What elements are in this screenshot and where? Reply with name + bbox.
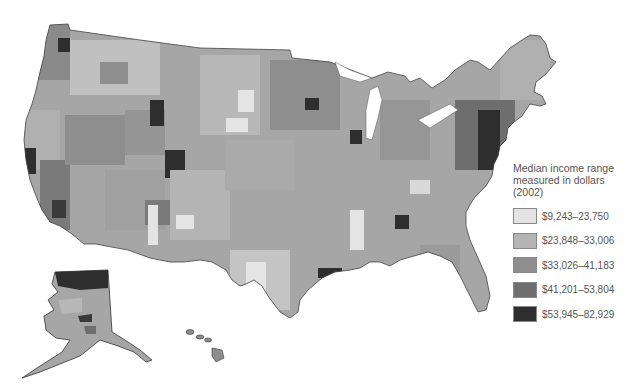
- region-michigan: [380, 100, 430, 160]
- legend-label: $23,848–33,006: [542, 235, 614, 246]
- legend-title-line: (2002): [513, 186, 638, 198]
- legend-label: $33,026–41,183: [542, 260, 614, 271]
- legend-swatch: [513, 282, 537, 298]
- legend-swatch: [513, 208, 537, 224]
- region-chicago: [350, 130, 362, 144]
- legend-title: Median income range measured in dollars …: [513, 162, 638, 198]
- legend-item: $9,243–23,750: [513, 204, 638, 229]
- region-nm: [170, 170, 230, 240]
- region-minneapolis: [305, 98, 319, 110]
- hawaii-kauai: [186, 330, 194, 335]
- legend-label: $9,243–23,750: [542, 211, 609, 222]
- legend-item: $53,945–82,929: [513, 302, 638, 327]
- region-seattle: [58, 38, 70, 52]
- legend-label: $53,945–82,929: [542, 309, 614, 320]
- legend-label: $41,201–53,804: [542, 284, 614, 295]
- legend: Median income range measured in dollars …: [513, 162, 638, 327]
- region-bos-dc: [478, 110, 500, 170]
- region-sf-bay: [22, 148, 36, 174]
- region-atlanta: [395, 215, 409, 229]
- legend-item: $33,026–41,183: [513, 253, 638, 278]
- region-appalachia: [410, 180, 430, 194]
- region-maine: [500, 40, 550, 100]
- legend-item: $41,201–53,804: [513, 278, 638, 303]
- region-ca-south: [40, 160, 70, 230]
- legend-swatch: [513, 233, 537, 249]
- region-sd-light: [238, 90, 254, 112]
- hawaii-maui: [205, 338, 212, 342]
- region-ms-delta: [350, 210, 364, 250]
- region-ne-light: [226, 118, 248, 132]
- legend-title-line: measured in dollars: [513, 174, 638, 186]
- legend-swatch: [513, 306, 537, 322]
- alaska-west: [58, 298, 82, 314]
- region-mn-wi: [270, 60, 340, 130]
- region-az-light: [148, 205, 158, 245]
- region-kansas: [225, 140, 295, 190]
- region-nevada: [65, 115, 125, 165]
- region-houston: [318, 268, 342, 278]
- alaska-anchorage: [84, 326, 96, 334]
- alaska: [22, 270, 152, 378]
- region-florida: [420, 245, 460, 305]
- region-utah-dark: [150, 100, 164, 126]
- legend-item: $23,848–33,006: [513, 229, 638, 254]
- hawaii-big-island: [212, 348, 224, 362]
- region-nm-light: [176, 215, 194, 229]
- legend-title-line: Median income range: [513, 162, 638, 174]
- region-mt-patch: [100, 62, 128, 84]
- hawaii-oahu: [196, 335, 204, 339]
- hawaii: [186, 330, 224, 363]
- legend-swatch: [513, 257, 537, 273]
- region-la: [52, 200, 66, 218]
